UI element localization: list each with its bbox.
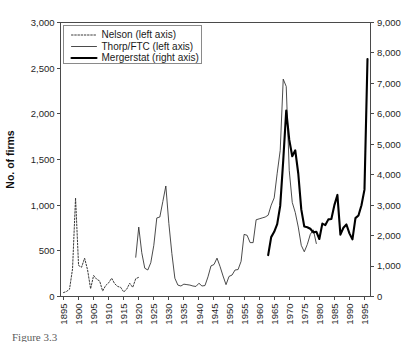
series-path-nelson [64,198,139,293]
legend-label: Nelson (left axis) [102,29,176,40]
right-axis-tick-label: 6,000 [377,108,401,119]
x-axis-tick-label: 1935 [178,304,189,325]
x-axis-tick-label: 1980 [314,304,325,325]
legend-label: Mergerstat (right axis) [102,52,199,63]
x-axis-tick-label: 1985 [329,304,340,325]
left-axis-tick-label: 3,000 [31,17,55,28]
x-axis-tick-label: 1975 [299,304,310,325]
x-axis-tick-label: 1895 [58,304,69,325]
x-axis-tick-label: 1910 [103,304,114,325]
x-axis-tick-label: 1960 [254,304,265,325]
figure-container: 05001,0001,5002,0002,5003,00001,0002,000… [0,0,416,342]
x-axis-tick-label: 1940 [194,304,205,325]
x-axis-tick-label: 1930 [163,304,174,325]
x-axis-tick-label: 1905 [88,304,99,325]
x-axis-tick-label: 1965 [269,304,280,325]
x-axis-tick-label: 1900 [73,304,84,325]
y-axis-title: No. of firms [4,130,16,188]
left-axis-tick-label: 2,500 [31,63,55,74]
chart-canvas: 05001,0001,5002,0002,5003,00001,0002,000… [0,0,416,342]
x-axis-tick-label: 1955 [239,304,250,325]
series-path-thorp-ftc [136,79,317,286]
legend-label: Thorp/FTC (left axis) [102,41,194,52]
x-axis-tick-label: 1945 [209,304,220,325]
x-axis-tick-label: 1970 [284,304,295,325]
x-axis-tick-label: 1915 [118,304,129,325]
x-axis-tick-label: 1950 [224,304,235,325]
left-axis-tick-label: 500 [39,245,55,256]
right-axis-tick-label: 8,000 [377,47,401,58]
x-axis-tick-label: 1925 [148,304,159,325]
right-axis-tick-label: 1,000 [377,260,401,271]
right-axis-tick-label: 3,000 [377,200,401,211]
right-axis-tick-label: 5,000 [377,139,401,150]
left-axis-tick-label: 2,000 [31,108,55,119]
right-axis-tick-label: 2,000 [377,230,401,241]
x-axis-tick-label: 1995 [359,304,370,325]
figure-caption: Figure 3.3 [12,331,212,342]
right-axis-tick-label: 7,000 [377,78,401,89]
left-axis-tick-label: 1,500 [31,154,55,165]
x-axis-tick-label: 1990 [344,304,355,325]
right-axis-tick-label: 0 [377,291,382,302]
left-axis-tick-label: 0 [49,291,54,302]
x-axis-tick-label: 1920 [133,304,144,325]
right-axis-tick-label: 4,000 [377,169,401,180]
right-axis-tick-label: 9,000 [377,17,401,28]
left-axis-tick-label: 1,000 [31,200,55,211]
